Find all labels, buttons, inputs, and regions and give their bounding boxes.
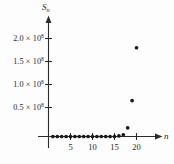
y-axis-label: Sn <box>42 2 50 13</box>
x-axis-arrowhead <box>155 134 163 140</box>
scatter-plot-figure: 2.0 × 108 1.5 × 108 1.0 × 108 0.5 × 108 … <box>0 0 174 164</box>
data-point <box>77 135 81 139</box>
data-point <box>55 135 59 139</box>
data-point <box>108 135 112 139</box>
data-point <box>51 135 55 139</box>
data-point <box>82 135 86 139</box>
y-axis-arrowhead <box>46 16 52 24</box>
x-tick-label-15: 15 <box>108 142 122 152</box>
data-point <box>95 135 99 139</box>
x-tick-label-20: 20 <box>130 142 144 152</box>
x-tick-label-5: 5 <box>64 142 78 152</box>
data-point-series <box>51 46 138 138</box>
data-point <box>73 135 77 139</box>
data-point <box>121 133 125 137</box>
data-point <box>86 135 90 139</box>
data-point <box>117 134 121 138</box>
data-point <box>60 135 64 139</box>
y-tick-label-2: 2.0 × 108 <box>2 33 44 43</box>
data-point <box>126 126 130 130</box>
data-point <box>64 135 68 139</box>
data-point <box>135 46 139 50</box>
y-tick-label-0-5: 0.5 × 108 <box>2 102 44 112</box>
data-point <box>113 135 117 139</box>
y-tick-label-1-5: 1.5 × 108 <box>2 56 44 66</box>
data-point <box>69 135 73 139</box>
data-point <box>91 135 95 139</box>
data-point <box>104 135 108 139</box>
data-point <box>99 135 103 139</box>
data-point <box>130 99 134 103</box>
y-tick-label-1: 1.0 × 108 <box>2 79 44 89</box>
x-tick-label-10: 10 <box>86 142 100 152</box>
x-axis-label: n <box>164 131 169 141</box>
